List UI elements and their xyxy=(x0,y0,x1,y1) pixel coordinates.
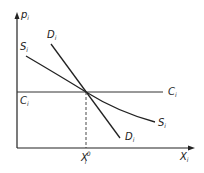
y-axis-arrow-icon xyxy=(15,12,20,19)
supply-label-left: Si xyxy=(20,41,28,53)
x-axis-arrow-icon xyxy=(188,146,195,151)
equilibrium-quantity-label: X0i xyxy=(80,150,91,165)
cost-label-right: Ci xyxy=(168,86,177,98)
x-axis-label: Xi xyxy=(179,151,189,163)
supply-label-right: Si xyxy=(158,117,166,129)
demand-label-bottom: Di xyxy=(125,131,135,143)
supply-demand-diagram: pi Si Di Ci Ci Si Di Xi X0i xyxy=(0,0,204,173)
demand-label-top: Di xyxy=(47,29,57,41)
cost-label-left: Ci xyxy=(20,95,29,107)
supply-curve xyxy=(26,56,155,122)
y-axis-label: pi xyxy=(20,9,29,21)
demand-curve xyxy=(51,44,120,138)
